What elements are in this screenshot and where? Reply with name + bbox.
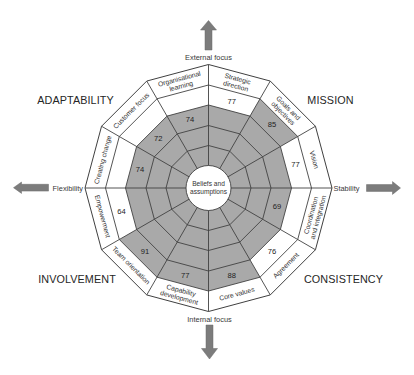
sector-score: 91 bbox=[141, 247, 149, 256]
arrow-right-icon bbox=[367, 182, 401, 195]
trait-label-adaptability: ADAPTABILITY bbox=[37, 94, 114, 106]
trait-label-consistency: CONSISTENCY bbox=[304, 273, 383, 285]
axis-label-stability: Stability bbox=[334, 184, 360, 193]
trait-label-involvement: INVOLVEMENT bbox=[38, 273, 116, 285]
core-label-line: Beliefs and bbox=[192, 180, 225, 187]
sector-score: 77 bbox=[228, 97, 236, 106]
sector-score: 69 bbox=[273, 202, 281, 211]
core-label: Beliefs andassumptions bbox=[190, 180, 228, 196]
arrow-up-icon bbox=[201, 21, 217, 51]
sector-score: 77 bbox=[181, 271, 189, 280]
sector-score: 64 bbox=[117, 207, 125, 216]
culture-model-diagram: External focus Internal focus Flexibilit… bbox=[0, 0, 414, 375]
sector-score: 85 bbox=[268, 120, 276, 129]
circumplex: Beliefs andassumptions bbox=[85, 65, 332, 312]
trait-label-mission: MISSION bbox=[307, 94, 353, 106]
sector-score: 72 bbox=[154, 134, 162, 143]
axis-label-external-focus: External focus bbox=[185, 53, 232, 62]
sector-score: 74 bbox=[186, 115, 194, 124]
sector-score: 77 bbox=[291, 160, 299, 169]
sector-score: 74 bbox=[136, 165, 144, 174]
sector-score: 88 bbox=[228, 271, 236, 280]
sector-score: 76 bbox=[268, 247, 276, 256]
arrow-down-icon bbox=[202, 325, 218, 359]
arrow-left-icon bbox=[14, 182, 49, 193]
core-label-line: assumptions bbox=[190, 188, 228, 196]
axis-label-flexibility: Flexibility bbox=[53, 184, 84, 193]
axis-label-internal-focus: Internal focus bbox=[187, 315, 232, 324]
